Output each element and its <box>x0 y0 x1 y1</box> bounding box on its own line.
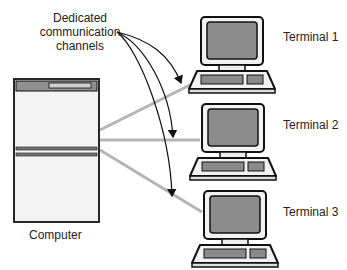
computer-label: Computer <box>29 228 82 242</box>
callout-line-3: channels <box>30 39 130 53</box>
callout-label: Dedicated communication channels <box>30 11 130 53</box>
terminal-3-icon <box>192 191 278 267</box>
computer-icon <box>14 79 99 222</box>
connection-lines <box>100 82 202 212</box>
terminal-2-label: Terminal 2 <box>283 118 338 132</box>
callout-line-1: Dedicated <box>30 11 130 25</box>
terminal-1-label: Terminal 1 <box>283 30 338 44</box>
channel-arrows <box>117 32 181 196</box>
terminal-3-label: Terminal 3 <box>283 205 338 219</box>
callout-line-2: communication <box>30 25 130 39</box>
terminal-2-icon <box>190 104 276 180</box>
terminal-1-icon <box>189 17 275 93</box>
